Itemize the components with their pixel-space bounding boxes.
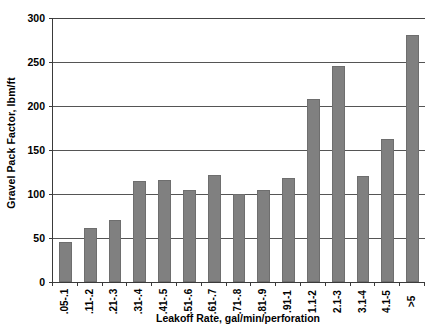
y-axis-title-text: Gravel Pack Factor, lbm/ft: [5, 77, 17, 209]
bar: [233, 194, 246, 282]
x-axis-tick-label-text: .11-.2: [84, 289, 95, 314]
x-axis-tick-label: .71-.8: [225, 287, 251, 313]
x-axis-tick-label: 4.1-5: [374, 287, 400, 313]
x-axis-tick-label: .91-1: [275, 287, 301, 313]
x-axis-tick-label-text: .51-.6: [183, 289, 194, 315]
x-axis-tick: [325, 282, 326, 286]
bars-layer: [53, 18, 425, 282]
x-axis-tick: [226, 282, 227, 286]
x-axis-tick-label-text: .91-1: [282, 290, 293, 313]
bar: [183, 190, 196, 282]
x-axis-tick-label-text: .71-.8: [232, 289, 243, 315]
bar: [381, 139, 394, 282]
x-axis-tick-label: .41-.5: [151, 287, 177, 313]
y-axis-title: Gravel Pack Factor, lbm/ft: [0, 0, 22, 285]
bar: [282, 178, 295, 282]
y-axis-tick-label: 50: [33, 232, 45, 244]
x-axis-tick-label-text: .41-.5: [158, 289, 169, 315]
x-axis-tick-label: .61-.7: [200, 287, 226, 313]
y-axis-tick-label: 100: [27, 188, 45, 200]
bar: [208, 175, 221, 282]
bar: [257, 190, 270, 282]
x-axis-tick-label-text: 4.1-5: [381, 290, 392, 313]
x-axis-title: Leakoff Rate, gal/min/perforation: [52, 312, 424, 324]
x-axis-tick-label-text: .21-.3: [108, 289, 119, 315]
x-axis-tick-label-text: .05-.1: [59, 289, 70, 315]
x-axis-tick-label: 2.1-3: [324, 287, 350, 313]
y-axis-tick-label: 200: [27, 100, 45, 112]
y-axis-tick-label: 300: [27, 12, 45, 24]
x-axis-tick: [102, 282, 103, 286]
bar: [307, 99, 320, 282]
x-axis-tick: [424, 282, 425, 286]
y-axis-tick-label: 250: [27, 56, 45, 68]
x-axis-tick-label-text: >5: [406, 296, 417, 307]
x-axis-tick-labels: .05-.1.11-.2.21-.3.31-.4.41-.5.51-.6.61-…: [52, 287, 424, 313]
x-axis-tick-label-text: .31-.4: [133, 289, 144, 315]
bar: [133, 181, 146, 282]
x-axis-tick: [399, 282, 400, 286]
x-axis-tick-label: .05-.1: [51, 287, 77, 313]
bar: [158, 180, 171, 282]
x-axis-tick-label-text: 1.1-2: [307, 290, 318, 313]
x-axis-tick-label: .51-.6: [175, 287, 201, 313]
x-axis-tick-label: 3.1-4: [349, 287, 375, 313]
x-axis-tick: [151, 282, 152, 286]
x-axis-tick: [374, 282, 375, 286]
x-axis-tick-label: .31-.4: [126, 287, 152, 313]
x-axis-tick: [201, 282, 202, 286]
plot-area: [52, 18, 425, 283]
x-axis-tick-label: .11-.2: [76, 287, 102, 313]
y-axis-tick-label: 0: [39, 276, 45, 288]
x-axis-tick: [126, 282, 127, 286]
y-axis-tick-label: 150: [27, 144, 45, 156]
x-axis-tick-label: .21-.3: [101, 287, 127, 313]
bar: [357, 176, 370, 282]
bar: [84, 228, 97, 282]
x-axis-tick: [350, 282, 351, 286]
x-axis-tick-label: .81-.9: [250, 287, 276, 313]
x-axis-tick: [275, 282, 276, 286]
x-axis-tick: [300, 282, 301, 286]
x-axis-tick-label-text: .61-.7: [208, 289, 219, 315]
bar-chart: Gravel Pack Factor, lbm/ft 0501001502002…: [0, 0, 435, 331]
x-axis-tick: [77, 282, 78, 286]
x-axis-tick: [52, 282, 53, 286]
x-axis-tick: [176, 282, 177, 286]
bar: [59, 242, 72, 282]
bar: [332, 66, 345, 282]
bar: [406, 35, 419, 282]
x-axis-tick-label: 1.1-2: [299, 287, 325, 313]
y-axis-tick-labels: 050100150200250300: [20, 18, 48, 282]
x-axis-tick-label-text: 3.1-4: [356, 290, 367, 313]
bar: [109, 220, 122, 282]
x-axis-tick: [250, 282, 251, 286]
x-axis-tick-label-text: 2.1-3: [332, 290, 343, 313]
x-axis-tick-label: >5: [399, 287, 425, 313]
x-axis-tick-label-text: .81-.9: [257, 289, 268, 315]
